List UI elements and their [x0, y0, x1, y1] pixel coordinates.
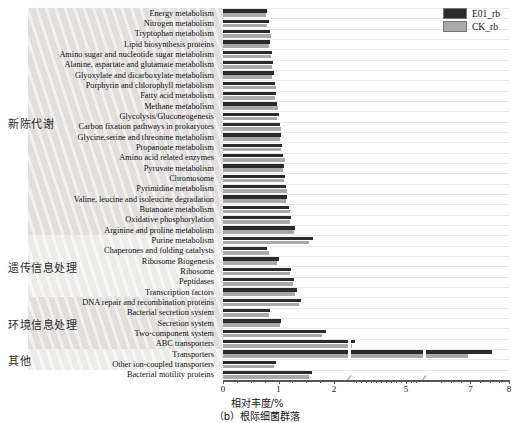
bar-e01 [223, 371, 312, 375]
category-label: Two-component system [135, 329, 214, 338]
bar-ck [223, 106, 278, 110]
legend-item-e01: E01_rb [443, 8, 500, 19]
category-label: Energy metabolism [149, 9, 214, 18]
category-label: Fatty acid metabolism [140, 91, 214, 100]
category-label: Amino sugar and nucleotide sugar metabol… [59, 50, 214, 59]
figure-caption: （b）根际细菌群落 [0, 408, 514, 423]
bar-e01 [223, 237, 313, 241]
bar-e01 [223, 82, 275, 86]
bar-ck [223, 75, 272, 79]
legend-swatch-e01 [443, 8, 467, 19]
legend-item-ck: CK_rb [443, 21, 500, 32]
bar-ck [223, 334, 322, 338]
bar-e01 [223, 319, 281, 323]
category-label: Arginine and proline metabolism [104, 226, 214, 235]
bar-ck [223, 375, 309, 379]
bar-ck [223, 44, 269, 48]
axis-break-marker: ∕∕ [347, 373, 348, 384]
bar-e01 [351, 340, 355, 344]
bar-e01 [223, 278, 294, 282]
axis-tick [306, 380, 307, 383]
bar-e01 [223, 20, 269, 24]
plot-area: Energy metabolismNitrogen metabolismTryp… [223, 8, 509, 380]
bar-e01 [223, 226, 295, 230]
bar-e01 [223, 40, 270, 44]
legend-label-e01: E01_rb [472, 9, 500, 19]
bar-ck [223, 365, 274, 369]
axis-tick [441, 380, 442, 383]
axis-tick [366, 380, 367, 383]
category-label: Transporters [172, 350, 214, 359]
bar-ck [223, 210, 290, 214]
bar-e01 [223, 361, 276, 365]
axis-tick [292, 380, 293, 383]
bar-ck [223, 24, 267, 28]
bar-ck [351, 354, 423, 358]
bar-e01 [223, 206, 289, 210]
axis-tick-label: 8 [507, 384, 512, 394]
bar-ck [223, 323, 280, 327]
group-label: 环境信息处理 [8, 316, 77, 332]
axis-tick [396, 380, 397, 383]
bar-ck [426, 354, 468, 358]
axis-tick [401, 380, 402, 383]
axis-tick [356, 380, 357, 383]
group-label: 新陈代谢 [8, 115, 54, 131]
category-label: Ribosome [180, 267, 214, 276]
category-label: Carbon fixation pathways in prokaryotes [79, 122, 215, 131]
category-label: Pyruvate metabolism [144, 164, 214, 173]
bar-ck [223, 117, 277, 121]
bar-ck [223, 344, 348, 348]
bar-e01 [223, 113, 279, 117]
axis-tick-label: 2 [332, 384, 337, 394]
category-label: Glyoxylate and dicarboxylate metabolism [75, 71, 214, 80]
bar-ck [223, 241, 309, 245]
axis-tick [499, 380, 500, 383]
bar-e01 [223, 102, 277, 106]
category-label: Bacterial motility proteins [127, 370, 214, 379]
axis-tick [361, 380, 362, 383]
category-label: Amino acid related enzymes [119, 153, 214, 162]
axis-tick [391, 380, 392, 383]
bar-e01 [426, 350, 492, 354]
bar-ck [223, 282, 293, 286]
bar-e01 [223, 309, 270, 313]
bar-ck [223, 127, 281, 131]
category-label: Peptidases [179, 277, 214, 286]
bar-e01 [223, 257, 279, 261]
bar-e01 [223, 9, 267, 13]
bar-ck [223, 34, 271, 38]
bar-ck [223, 55, 271, 59]
axis-tick [251, 380, 252, 383]
axis-tick-label: 0 [221, 384, 226, 394]
bar-ck [223, 179, 284, 183]
bar-e01 [223, 123, 280, 127]
category-label: Methane metabolism [144, 102, 214, 111]
axis-tick [381, 380, 382, 383]
bar-ck [223, 65, 272, 69]
category-label: Valine, leucine and isoleucine degradati… [74, 195, 214, 204]
axis-tick [416, 380, 417, 383]
bar-ck [223, 158, 285, 162]
bar-ck [223, 13, 266, 17]
bar-e01 [223, 330, 326, 334]
chart-legend: E01_rb CK_rb [443, 8, 500, 34]
axis-tick [320, 380, 321, 383]
bar-e01 [223, 30, 270, 34]
category-label: Chaperones and folding catalysts [104, 246, 214, 255]
category-label: Other ion-coupled transporters [112, 360, 214, 369]
category-label: Purine metabolism [152, 236, 214, 245]
bar-ck [223, 251, 269, 255]
bar-e01 [223, 288, 297, 292]
bar-ck [223, 313, 269, 317]
category-label: Oxidative phosphorylation [125, 215, 214, 224]
axis-tick [237, 380, 238, 383]
bar-ck [223, 96, 275, 100]
category-label: Nitrogen metabolism [144, 19, 214, 28]
category-label: Chromosome [169, 174, 214, 183]
category-label: Tryptophan metabolism [135, 29, 214, 38]
category-label: Glycolysis/Gluconeogenesis [120, 112, 214, 121]
category-label: Butanoate metabolism [140, 205, 214, 214]
figure-bacterial-community-chart: 新陈代谢遗传信息处理环境信息处理其他 E01_rb CK_rb Energy m… [0, 0, 514, 423]
bar-e01 [223, 71, 274, 75]
